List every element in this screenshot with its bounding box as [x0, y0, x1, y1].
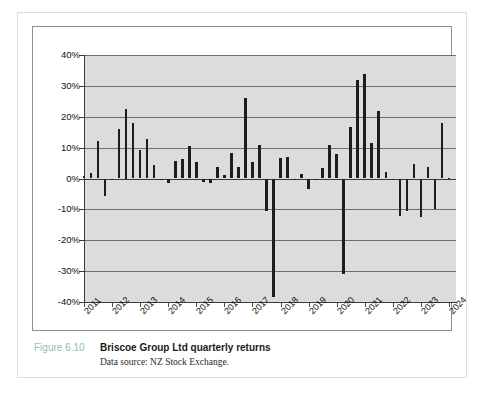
y-axis-tick-label: -40% — [36, 297, 80, 307]
y-axis-tick-label: -30% — [36, 266, 80, 276]
bar — [272, 179, 275, 298]
bar — [195, 162, 198, 178]
bar — [111, 179, 114, 181]
bar — [370, 143, 373, 179]
bar — [223, 175, 226, 179]
bar — [258, 145, 261, 179]
bar — [139, 150, 142, 179]
bar — [265, 179, 268, 211]
bar — [335, 154, 338, 178]
y-axis-tick-label: 10% — [36, 143, 80, 153]
figure-title: Briscoe Group Ltd quarterly returns — [100, 341, 449, 355]
gridline — [84, 240, 456, 241]
bar — [342, 179, 345, 275]
bar — [392, 179, 395, 181]
bar — [434, 179, 437, 209]
bar — [153, 165, 156, 179]
bar — [216, 167, 219, 178]
gridline — [84, 55, 456, 56]
bar — [237, 167, 240, 179]
bar — [202, 179, 205, 182]
y-axis-labels: 40%30%20%10%0%-10%-20%-30%-40% — [33, 27, 80, 330]
bar — [377, 111, 380, 178]
bar — [356, 80, 359, 178]
bar — [399, 179, 402, 217]
bar — [279, 158, 282, 179]
bar — [125, 109, 128, 178]
y-axis-tick-label: 0% — [36, 174, 80, 184]
figure-caption: Figure 6.10 Briscoe Group Ltd quarterly … — [34, 341, 449, 369]
bar — [146, 139, 149, 178]
gridline — [84, 86, 456, 87]
figure-source: Data source: NZ Stock Exchange. — [100, 356, 449, 369]
bar — [209, 179, 212, 183]
y-axis-tick-label: 40% — [36, 50, 80, 60]
bar — [118, 129, 121, 178]
bar — [286, 157, 289, 179]
bar — [181, 159, 184, 179]
y-axis-tick-label: 20% — [36, 112, 80, 122]
plot-area — [84, 55, 456, 302]
bar — [300, 174, 303, 178]
bar — [97, 141, 100, 179]
figure-number: Figure 6.10 — [34, 342, 100, 353]
bar — [230, 153, 233, 178]
y-axis-tick-label: 30% — [36, 81, 80, 91]
bar — [293, 179, 296, 180]
bar — [188, 146, 191, 178]
bar — [167, 179, 170, 183]
bar — [174, 161, 177, 179]
bar — [406, 179, 409, 211]
bar — [420, 179, 423, 218]
bar — [314, 179, 317, 180]
y-axis-tick-label: -10% — [36, 204, 80, 214]
bar — [321, 168, 324, 178]
bar — [385, 172, 388, 179]
bar — [160, 179, 163, 181]
bar — [104, 179, 107, 197]
gridline — [84, 148, 456, 149]
bar — [307, 179, 310, 190]
bar — [244, 98, 247, 179]
y-axis-line — [84, 55, 85, 303]
bar — [448, 178, 451, 179]
bar — [349, 127, 352, 178]
y-axis-tick-label: -20% — [36, 235, 80, 245]
bar — [413, 164, 416, 179]
chart-frame: 40%30%20%10%0%-10%-20%-30%-40% 201120122… — [32, 26, 452, 331]
bar — [363, 74, 366, 179]
bar — [328, 145, 331, 179]
bar — [132, 123, 135, 178]
gridline — [84, 117, 456, 118]
bar — [251, 162, 254, 179]
bar — [427, 167, 430, 178]
bar — [441, 123, 444, 178]
chart-plot-wrapper: 40%30%20%10%0%-10%-20%-30%-40% 201120122… — [33, 27, 451, 330]
figure-card: 40%30%20%10%0%-10%-20%-30%-40% 201120122… — [17, 12, 467, 378]
gridline — [84, 271, 456, 272]
bar — [90, 173, 93, 179]
